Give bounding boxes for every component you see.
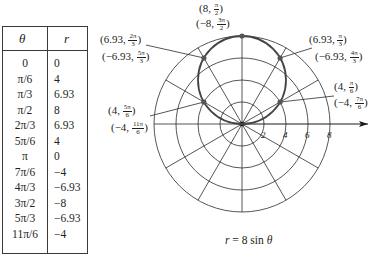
data-point [201, 55, 206, 60]
tick-label: 8 [327, 130, 332, 140]
data-point [239, 33, 244, 38]
data-point [278, 55, 283, 60]
label-leader-lines [146, 45, 334, 116]
data-point [201, 99, 206, 104]
data-point [278, 99, 283, 104]
grid-spoke [166, 124, 242, 168]
label-top-b: (−8, 3π2) [196, 17, 230, 32]
label-upper-left-b: (−6.93, 5π3) [102, 50, 149, 65]
label-left-lower-b: (−4, 11π6) [111, 121, 148, 136]
tick-label: 4 [283, 130, 288, 140]
radial-tick-labels: 2468 [261, 130, 332, 140]
label-right-lower-b: (−4, 7π6) [334, 96, 368, 111]
tick-label: 2 [261, 130, 266, 140]
label-upper-left-a: (6.93, 2π3) [100, 33, 141, 48]
grid-spoke [198, 124, 242, 200]
label-left-lower-a: (4, 5π6) [108, 104, 135, 119]
label-top-a: (8, π2) [199, 2, 223, 17]
label-upper-right-b: (−6.93, 4π3) [315, 50, 362, 65]
leader-line [146, 45, 204, 58]
tick-label: 6 [305, 130, 310, 140]
label-right-lower-a: (4, π6) [334, 80, 358, 95]
equation-caption: r = 8 sin θ [225, 234, 272, 246]
label-upper-right-a: (6.93, π3) [309, 33, 347, 48]
